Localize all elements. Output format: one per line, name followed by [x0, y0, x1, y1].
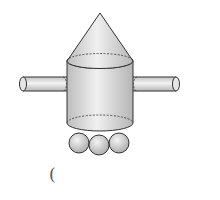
answer-blank-paren: ( [49, 164, 56, 184]
sphere-right [109, 133, 129, 153]
top-cone [67, 13, 133, 69]
sphere-left [69, 133, 89, 153]
left-arm-cylinder [20, 77, 68, 91]
right-arm-cylinder [133, 77, 180, 91]
sphere-middle [89, 135, 109, 155]
geometric-solid-figure [0, 0, 220, 200]
bottom-spheres [69, 133, 129, 155]
